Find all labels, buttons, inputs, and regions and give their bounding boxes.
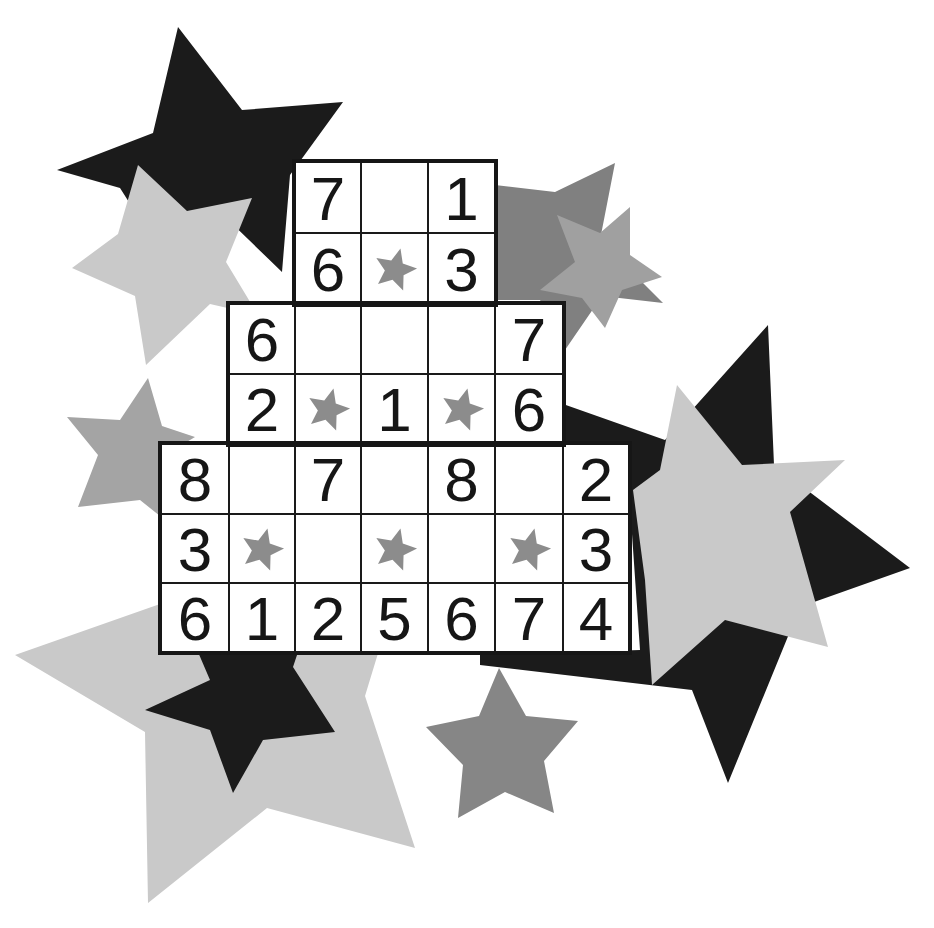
grid-cell-r4-c4[interactable]: 1 xyxy=(360,373,429,445)
grid-cell-r6-c4[interactable] xyxy=(360,513,429,584)
puzzle-grid: 7163672168782336125674 xyxy=(0,0,934,928)
grid-cell-r7-c7[interactable]: 4 xyxy=(562,582,630,653)
star-marker-icon xyxy=(372,526,418,572)
grid-cell-r1-c4[interactable] xyxy=(360,161,429,234)
star-marker-icon xyxy=(239,526,285,572)
cell-value: 6 xyxy=(245,309,279,371)
grid-cell-r6-c6[interactable] xyxy=(494,513,564,584)
cell-value: 3 xyxy=(579,519,613,581)
cell-value: 5 xyxy=(377,588,411,650)
grid-cell-r5-c7[interactable]: 2 xyxy=(562,443,630,515)
cell-value: 3 xyxy=(444,239,478,301)
cell-value: 1 xyxy=(444,168,478,230)
cell-value: 2 xyxy=(245,379,279,441)
grid-cell-r5-c3[interactable]: 7 xyxy=(294,443,362,515)
grid-cell-r3-c5[interactable] xyxy=(427,303,496,375)
cell-value: 7 xyxy=(512,588,546,650)
cell-value: 2 xyxy=(311,588,345,650)
cell-value: 7 xyxy=(311,449,345,511)
grid-cell-r6-c5[interactable] xyxy=(427,513,496,584)
grid-cell-r6-c3[interactable] xyxy=(294,513,362,584)
cell-value: 7 xyxy=(311,168,345,230)
cell-value: 6 xyxy=(512,379,546,441)
grid-cell-r5-c5[interactable]: 8 xyxy=(427,443,496,515)
star-marker-icon xyxy=(372,246,418,292)
grid-cell-r6-c7[interactable]: 3 xyxy=(562,513,630,584)
grid-cell-r5-c4[interactable] xyxy=(360,443,429,515)
grid-cell-r3-c3[interactable] xyxy=(294,303,362,375)
grid-cell-r5-c1[interactable]: 8 xyxy=(160,443,230,515)
cell-value: 1 xyxy=(245,588,279,650)
cell-value: 4 xyxy=(579,588,613,650)
grid-cell-r7-c2[interactable]: 1 xyxy=(228,582,296,653)
grid-cell-r3-c2[interactable]: 6 xyxy=(228,303,296,375)
grid-cell-r2-c3[interactable]: 6 xyxy=(294,232,362,305)
grid-cell-r7-c3[interactable]: 2 xyxy=(294,582,362,653)
grid-cell-r7-c6[interactable]: 7 xyxy=(494,582,564,653)
grid-cell-r6-c2[interactable] xyxy=(228,513,296,584)
grid-cell-r7-c5[interactable]: 6 xyxy=(427,582,496,653)
grid-cell-r5-c6[interactable] xyxy=(494,443,564,515)
grid-cell-r2-c4[interactable] xyxy=(360,232,429,305)
grid-cell-r3-c6[interactable]: 7 xyxy=(494,303,564,375)
grid-cell-r3-c4[interactable] xyxy=(360,303,429,375)
grid-cell-r1-c5[interactable]: 1 xyxy=(427,161,496,234)
grid-cell-r1-c3[interactable]: 7 xyxy=(294,161,362,234)
cell-value: 8 xyxy=(178,449,212,511)
cell-value: 3 xyxy=(178,519,212,581)
grid-cell-r6-c1[interactable]: 3 xyxy=(160,513,230,584)
cell-value: 6 xyxy=(311,239,345,301)
grid-cell-r7-c1[interactable]: 6 xyxy=(160,582,230,653)
grid-cell-r4-c2[interactable]: 2 xyxy=(228,373,296,445)
star-marker-icon xyxy=(506,526,552,572)
cell-value: 8 xyxy=(444,449,478,511)
grid-cell-r7-c4[interactable]: 5 xyxy=(360,582,429,653)
cell-value: 1 xyxy=(377,379,411,441)
grid-cell-r4-c3[interactable] xyxy=(294,373,362,445)
grid-cell-r4-c5[interactable] xyxy=(427,373,496,445)
grid-cell-r2-c5[interactable]: 3 xyxy=(427,232,496,305)
cell-value: 6 xyxy=(178,588,212,650)
grid-cell-r5-c2[interactable] xyxy=(228,443,296,515)
grid-cell-r4-c6[interactable]: 6 xyxy=(494,373,564,445)
star-marker-icon xyxy=(439,386,485,432)
cell-value: 7 xyxy=(512,309,546,371)
cell-value: 6 xyxy=(444,588,478,650)
star-marker-icon xyxy=(305,386,351,432)
cell-value: 2 xyxy=(579,449,613,511)
